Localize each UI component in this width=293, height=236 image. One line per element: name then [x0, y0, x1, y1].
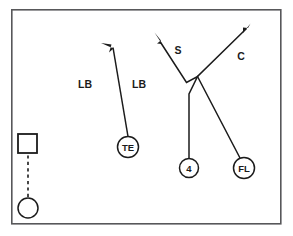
player-back-four[interactable]: 4 — [180, 159, 199, 178]
label-linebacker-left: LB — [78, 78, 92, 90]
play-diagram-svg: TE 4 FL LB LB S C — [0, 0, 293, 236]
label-safety-route: S — [174, 44, 181, 56]
player-flanker[interactable]: FL — [234, 158, 255, 179]
player-tight-end[interactable]: TE — [118, 137, 139, 158]
player-offensive-lineman-square[interactable] — [18, 134, 37, 153]
player-flanker-label: FL — [238, 163, 250, 174]
player-back-four-label: 4 — [186, 163, 192, 174]
play-diagram-root: TE 4 FL LB LB S C — [0, 0, 293, 236]
label-corner-route: C — [237, 50, 245, 62]
field-border — [12, 10, 281, 224]
player-tight-end-label: TE — [122, 142, 134, 153]
player-motion-back-circle[interactable] — [18, 198, 38, 218]
label-linebacker-right: LB — [132, 78, 146, 90]
